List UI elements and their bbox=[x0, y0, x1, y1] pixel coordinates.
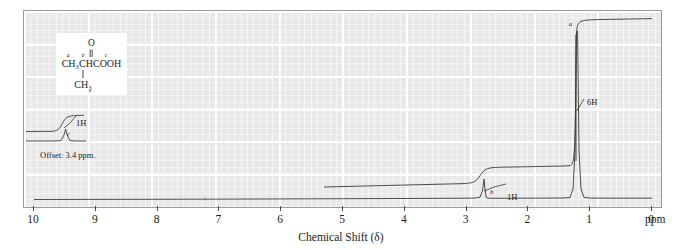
x-axis-tick bbox=[527, 206, 528, 211]
x-axis-tick bbox=[33, 206, 34, 211]
structure-carbonyl-o: O bbox=[88, 38, 95, 48]
structure-drawing: O a b c CH₃CHCOOH CH₃ a bbox=[56, 33, 127, 95]
x-axis-tick-labels: 109876543210 bbox=[0, 213, 682, 229]
x-axis-tick-label: 2 bbox=[525, 213, 531, 225]
x-axis-tick bbox=[466, 206, 467, 211]
peak-label-a: a bbox=[569, 20, 572, 27]
x-axis-tick-label: 10 bbox=[27, 213, 39, 225]
x-axis-tick bbox=[218, 206, 219, 211]
offset-note: Offset: 3.4 ppm. bbox=[40, 150, 96, 160]
integral-label-1h-c: 1H bbox=[76, 118, 86, 128]
integral-label-1h-b: 1H bbox=[507, 192, 517, 202]
x-axis-tick-label: 5 bbox=[339, 213, 345, 225]
x-axis-tick bbox=[95, 206, 96, 211]
x-axis-tick bbox=[404, 206, 405, 211]
leader-line-1h-c bbox=[64, 116, 76, 128]
x-axis-unit-label: ppm bbox=[645, 213, 665, 225]
x-axis-tick-label: 8 bbox=[154, 213, 160, 225]
x-axis-tick-label: 4 bbox=[401, 213, 407, 225]
integral-step-a bbox=[564, 19, 652, 166]
peak-label-c: c bbox=[67, 130, 70, 137]
integral-step-b bbox=[324, 166, 564, 187]
structure-main-chain: CH₃CHCOOH bbox=[62, 58, 122, 69]
x-axis-tick-label: 3 bbox=[463, 213, 469, 225]
leader-line-1h-b bbox=[484, 184, 506, 191]
x-axis-tick bbox=[280, 206, 281, 211]
leader-line-6h bbox=[577, 99, 584, 111]
x-axis-tick-label: 6 bbox=[277, 213, 283, 225]
plot-area: O a b c CH₃CHCOOH CH₃ a 1H c Offset: 3.4 bbox=[23, 10, 662, 208]
x-axis-tick bbox=[342, 206, 343, 211]
x-axis-tick bbox=[651, 206, 652, 211]
integral-label-6h: 6H bbox=[587, 97, 597, 107]
x-axis-tick-label: 7 bbox=[216, 213, 222, 225]
x-axis-tick bbox=[589, 206, 590, 211]
x-axis-title: Chemical Shift (δ) bbox=[0, 231, 682, 243]
x-axis-tick bbox=[157, 206, 158, 211]
peak-label-b: b bbox=[490, 188, 493, 195]
nmr-spectrum-figure: O a b c CH₃CHCOOH CH₃ a 1H c Offset: 3.4 bbox=[0, 0, 682, 250]
x-axis-tick-label: 1 bbox=[586, 213, 592, 225]
x-axis-tick-label: 9 bbox=[92, 213, 98, 225]
structure-inset: O a b c CH₃CHCOOH CH₃ a bbox=[56, 33, 127, 95]
